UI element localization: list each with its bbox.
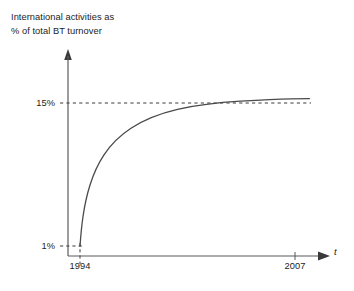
- x-tick-label-2007: 2007: [271, 261, 319, 271]
- figure-container: International activities as % of total B…: [0, 0, 354, 291]
- x-axis-name-label: t: [334, 246, 337, 257]
- y-tick-label-15pct: 15%: [14, 98, 55, 108]
- x-tick-label-1994: 1994: [56, 261, 104, 271]
- data-curve: [80, 99, 310, 246]
- x-axis-arrowhead: [318, 252, 330, 261]
- y-tick-label-1pct: 1%: [14, 241, 55, 251]
